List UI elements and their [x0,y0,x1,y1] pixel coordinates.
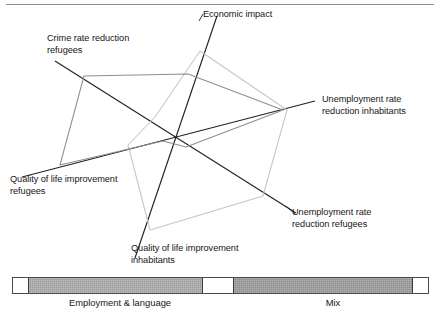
legend-bar [12,277,429,294]
legend-caption-mix: Mix [248,297,418,308]
axis-label-quality-of-life-improvement-refugees: Quality of life improvement refugees [10,174,117,197]
legend-segment-spacer-middle [203,278,233,293]
axis-label-crime-rate-reduction-refugees: Crime rate reduction refugees [47,33,129,56]
legend-caption-employment-language: Employment & language [30,297,210,308]
axis-label-quality-of-life-improvement-inhabitants: Quality of life improvement inhabitants [131,243,238,266]
legend-segment-spacer-right [413,278,428,293]
legend-segment-mix[interactable] [233,278,413,293]
legend-segment-employment-language[interactable] [28,278,203,293]
axis-label-unemployment-rate-reduction-refugees: Unemployment rate reduction refugees [292,207,371,230]
legend-segment-spacer-left [13,278,28,293]
axis-label-unemployment-rate-reduction-inhabitants: Unemployment rate reduction inhabitants [322,94,406,117]
series-polygon-mix [128,51,287,230]
axis-label-economic-impact: Economic impact [203,9,272,21]
label-leader-ticks [199,14,295,214]
chart-root: Economic impact Crime rate reduction ref… [0,0,440,315]
